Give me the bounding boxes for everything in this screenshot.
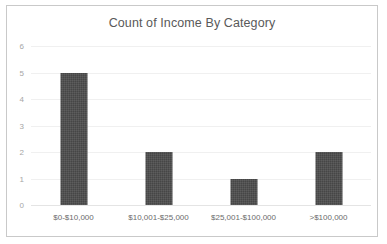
- x-axis-tick-label: >$100,000: [309, 213, 347, 222]
- y-axis-tick-label: 1: [20, 174, 24, 183]
- bar-group: >$100,000: [286, 46, 371, 205]
- x-axis-tick-label: $0-$10,000: [53, 213, 93, 222]
- y-axis-tick-label: 5: [20, 68, 24, 77]
- y-axis-tick-label: 2: [20, 148, 24, 157]
- y-axis-tick-label: 6: [20, 42, 24, 51]
- gridline: 0: [31, 205, 371, 206]
- x-axis-tick-label: $10,001-$25,000: [128, 213, 189, 222]
- bar-series: $0-$10,000$10,001-$25,000$25,001-$100,00…: [31, 46, 371, 205]
- y-axis-tick-label: 4: [20, 95, 24, 104]
- y-axis-tick-label: 3: [20, 121, 24, 130]
- plot-area: 6543210 $0-$10,000$10,001-$25,000$25,001…: [31, 46, 371, 205]
- bar[interactable]: [315, 152, 342, 205]
- y-axis-tick-label: 0: [20, 201, 24, 210]
- chart-container: Count of Income By Category 6543210 $0-$…: [6, 5, 378, 237]
- bar[interactable]: [60, 73, 87, 206]
- bar-group: $10,001-$25,000: [116, 46, 201, 205]
- bar-group: $0-$10,000: [31, 46, 116, 205]
- x-axis-tick-label: $25,001-$100,000: [211, 213, 276, 222]
- chart-title: Count of Income By Category: [7, 16, 377, 30]
- bar[interactable]: [145, 152, 172, 205]
- bar[interactable]: [230, 179, 257, 206]
- bar-group: $25,001-$100,000: [201, 46, 286, 205]
